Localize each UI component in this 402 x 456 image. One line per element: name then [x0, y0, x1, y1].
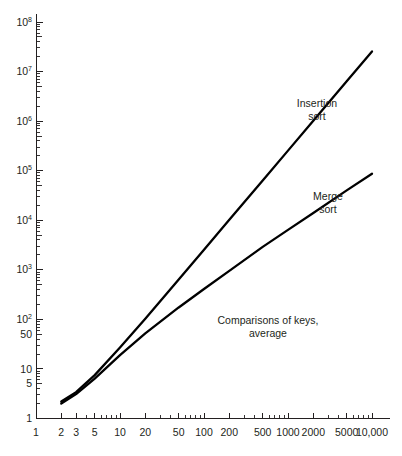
x-tick-label-10: 10 [114, 426, 126, 438]
x-tick-label-10,000: 10,000 [356, 426, 388, 438]
chart-caption-line1: Comparisons of keys, [218, 314, 319, 326]
chart-caption-line2: average [249, 327, 287, 339]
x-tick-label-500: 500 [254, 426, 272, 438]
x-tick-label-2: 2 [58, 426, 64, 438]
chart-figure: 151050102103104105106107108 123510205010… [0, 0, 402, 456]
y-axis-tick-labels: 151050102103104105106107108 [16, 16, 32, 425]
y-tick-label-100: 102 [16, 313, 32, 325]
y-tick-label-10000000: 107 [16, 65, 32, 77]
chart-plot-area: 151050102103104105106107108 123510205010… [0, 0, 402, 456]
insertion-sort-label-line2: sort [308, 110, 326, 122]
y-tick-label-10000: 104 [16, 214, 32, 226]
axes-group [36, 14, 390, 419]
x-axis-tick-labels: 123510205010020050010002000500010,000 [33, 426, 388, 438]
x-tick-label-1: 1 [33, 426, 39, 438]
x-tick-label-100: 100 [195, 426, 213, 438]
merge-sort-label-line2: sort [319, 203, 337, 215]
y-axis-ticks [37, 22, 43, 419]
x-tick-label-5: 5 [92, 426, 98, 438]
y-tick-label-100000000: 108 [16, 16, 32, 28]
x-tick-label-3: 3 [73, 426, 79, 438]
y-tick-label-100000: 105 [16, 164, 32, 176]
y-tick-label-50: 50 [20, 328, 32, 340]
merge-sort-label-line1: Merge [313, 190, 343, 202]
y-tick-label-5: 5 [26, 377, 32, 389]
y-tick-label-1000: 103 [16, 263, 32, 275]
x-tick-label-50: 50 [173, 426, 185, 438]
x-tick-label-1000: 1000 [276, 426, 300, 438]
y-tick-label-1000000: 106 [16, 115, 32, 127]
y-tick-label-1: 1 [26, 412, 32, 424]
x-tick-label-200: 200 [221, 426, 239, 438]
chart-caption: Comparisons of keys, average [218, 314, 319, 339]
insertion-sort-label-line1: Insertion [297, 97, 337, 109]
x-tick-label-2000: 2000 [302, 426, 326, 438]
x-axis-ticks [61, 413, 372, 419]
series-label-insertion-sort: Insertion sort [297, 97, 337, 122]
y-tick-label-10: 10 [20, 363, 32, 375]
x-tick-label-20: 20 [139, 426, 151, 438]
